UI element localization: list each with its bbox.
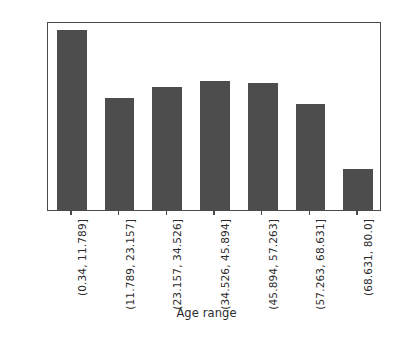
x-axis-tick-label: (34.526, 45.894] [219,219,231,310]
x-axis-tick-label: (45.894, 57.263] [267,219,279,310]
x-axis-tick-mark [166,211,167,215]
x-axis-title: Age range [0,306,413,320]
x-axis-tick-mark [309,211,310,215]
x-axis-tick-mark [213,211,214,215]
x-axis-tick-mark [118,211,119,215]
x-axis-tick-mark [261,211,262,215]
x-axis-tick-label: (11.789, 23.157] [124,219,136,310]
x-axis-tick-label: (23.157, 34.526] [171,219,183,310]
x-axis-tick-label: (0.34, 11.789] [76,219,88,296]
x-axis-tick-label: (68.631, 80.0] [362,219,374,296]
x-axis: (0.34, 11.789](11.789, 23.157](23.157, 3… [0,0,413,339]
bar-chart-figure: 0.00.10.20.30.40.50.6 (0.34, 11.789](11.… [0,0,413,339]
x-axis-tick-label: (57.263, 68.631] [314,219,326,310]
x-axis-tick-mark [356,211,357,215]
x-axis-tick-mark [70,211,71,215]
